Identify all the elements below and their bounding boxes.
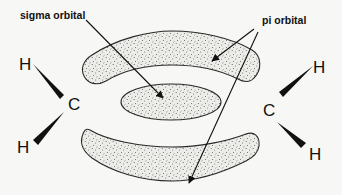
right-hydrogen-top: H (313, 58, 325, 77)
left-hydrogen-bottom: H (17, 138, 29, 157)
sigma-orbital-ellipse (121, 84, 221, 120)
pi-orbital-bottom-lobe (81, 129, 259, 181)
right-bond-top-wedge (279, 66, 313, 97)
sigma-orbital-label: sigma orbital (20, 9, 85, 21)
left-hydrogen-top: H (19, 55, 31, 74)
left-carbon: C (68, 95, 80, 114)
right-bond-bottom-wedge (277, 122, 306, 148)
ethylene-orbital-diagram: sigma orbital pi orbital H C H H C H (0, 0, 342, 195)
pi-orbital-label: pi orbital (262, 14, 306, 26)
right-carbon: C (263, 101, 275, 120)
left-bond-bottom-wedge (33, 112, 64, 145)
pi-orbital-top-lobe (82, 31, 259, 84)
left-bond-top-wedge (33, 64, 64, 99)
right-hydrogen-bottom: H (309, 145, 321, 164)
